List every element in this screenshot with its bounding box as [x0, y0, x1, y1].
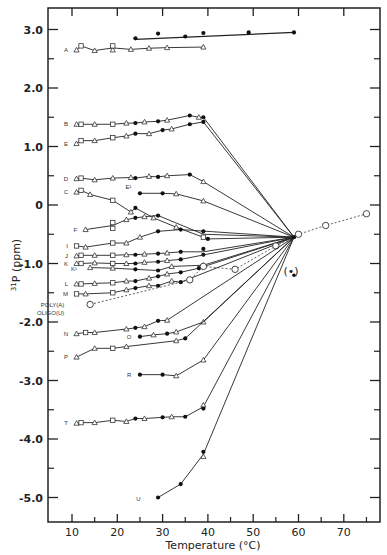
filled-circle-marker [292, 235, 296, 239]
filled-circle-marker [133, 286, 137, 290]
filled-circle-marker [156, 284, 160, 288]
filled-circle-marker [247, 30, 251, 34]
series-label: B [64, 121, 68, 127]
filled-circle-marker [133, 279, 137, 283]
filled-circle-marker [188, 122, 192, 126]
filled-circle-marker [161, 128, 165, 132]
series-label: M [63, 291, 68, 297]
filled-circle-marker [133, 132, 137, 136]
filled-circle-marker [133, 261, 137, 265]
filled-circle-marker [183, 336, 187, 340]
filled-circle-marker [161, 191, 165, 195]
square-marker [79, 261, 83, 265]
filled-circle-marker [138, 335, 142, 339]
filled-circle-marker [179, 227, 183, 231]
series-label: D [64, 176, 69, 182]
filled-circle-marker [183, 415, 187, 419]
triangle-marker [88, 192, 93, 197]
series-label: E [64, 141, 68, 147]
filled-circle-marker [133, 206, 137, 210]
series-line [77, 115, 294, 237]
square-marker [79, 176, 83, 180]
series-label: POLY(A) [41, 302, 65, 308]
series-line [86, 216, 294, 238]
series-label: F [73, 227, 77, 233]
square-marker [74, 292, 78, 296]
y-tick-label: 0 [35, 199, 43, 212]
triangle-marker [169, 278, 174, 283]
filled-circle-marker [133, 326, 137, 330]
square-marker [111, 418, 115, 422]
filled-circle-marker [201, 450, 205, 454]
open-circle-marker [232, 266, 238, 272]
filled-circle-marker [161, 373, 165, 377]
filled-circle-marker [201, 120, 205, 124]
square-marker [79, 138, 83, 142]
square-marker [201, 235, 205, 239]
square-marker [79, 420, 83, 424]
open-circle-marker [322, 222, 328, 228]
series-line [77, 237, 294, 423]
annotation-label: (•) [283, 265, 298, 278]
filled-circle-marker [206, 237, 210, 241]
series-label: U [136, 496, 140, 502]
triangle-marker [74, 355, 79, 360]
square-marker [111, 136, 115, 140]
x-tick-label: 50 [246, 526, 260, 539]
square-marker [111, 281, 115, 285]
square-marker [111, 226, 115, 230]
series-label: N [64, 331, 68, 337]
series-label: L [65, 281, 69, 287]
square-marker [79, 44, 83, 48]
open-circle-marker [87, 301, 93, 307]
square-marker [79, 253, 83, 257]
square-marker [111, 122, 115, 126]
series-line [77, 237, 294, 284]
filled-circle-marker [156, 31, 160, 35]
filled-circle-marker [179, 257, 183, 261]
x-tick-label: 40 [201, 526, 215, 539]
filled-circle-marker [156, 495, 160, 499]
series-line [77, 190, 294, 239]
triangle-marker [201, 179, 206, 184]
filled-circle-marker [156, 175, 160, 179]
y-tick-label: 1.0 [24, 141, 44, 154]
filled-circle-marker [156, 119, 160, 123]
series-line [140, 237, 294, 376]
filled-circle-marker [188, 113, 192, 117]
filled-circle-marker [156, 319, 160, 323]
filled-circle-marker [188, 172, 192, 176]
square-marker [111, 198, 115, 202]
x-tick-label: 70 [337, 526, 351, 539]
y-tick-label: -2.0 [19, 316, 43, 329]
filled-circle-marker [179, 270, 183, 274]
series-label: E¹ [125, 184, 131, 190]
filled-circle-marker [179, 250, 183, 254]
y-tick-label: -5.0 [19, 492, 43, 505]
square-marker [111, 241, 115, 245]
plot-frame [48, 8, 380, 522]
filled-circle-marker [156, 213, 160, 217]
y-tick-label: 2.0 [24, 82, 44, 95]
filled-circle-marker [183, 34, 187, 38]
x-tick-label: 60 [292, 526, 306, 539]
open-circle-marker [200, 263, 206, 269]
x-axis-label: Temperature (°C) [165, 539, 261, 552]
series-line [77, 122, 294, 237]
square-marker [111, 346, 115, 350]
filled-circle-marker [165, 332, 169, 336]
filled-circle-marker [201, 406, 205, 410]
square-marker [83, 330, 87, 334]
series-label: O [127, 334, 132, 340]
series-label: K¹ [71, 266, 77, 272]
y-tick-label: -3.0 [19, 375, 43, 388]
filled-circle-marker [156, 268, 160, 272]
x-tick-label: 20 [110, 526, 124, 539]
series-label: I [66, 243, 68, 249]
square-marker [111, 291, 115, 295]
series-line [77, 175, 294, 238]
series-label: C [64, 189, 69, 195]
open-circle-marker [363, 211, 369, 217]
series-label: P [64, 354, 68, 360]
filled-circle-marker [133, 36, 137, 40]
